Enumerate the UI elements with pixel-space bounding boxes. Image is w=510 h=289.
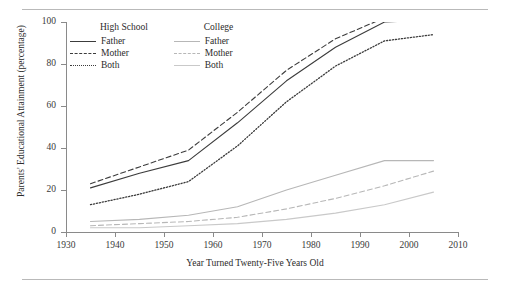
legend-group-high-school: High SchoolFatherMotherBoth — [70, 22, 148, 71]
legend-item-label: Father — [205, 36, 229, 46]
x-tick-2000 — [409, 232, 410, 237]
legend-swatch-icon — [174, 53, 200, 54]
x-tick-label-1990: 1990 — [340, 240, 380, 250]
y-tick-label-0: 0 — [16, 227, 56, 236]
x-tick-label-1930: 1930 — [46, 240, 86, 250]
x-tick-1950 — [164, 232, 165, 237]
figure-container: 020406080100 193019401950196019701980199… — [0, 0, 510, 289]
y-axis-title: Parents' Educational Attainment (percent… — [16, 0, 26, 226]
x-tick-label-1950: 1950 — [144, 240, 184, 250]
legend-group-heading: High School — [70, 22, 148, 32]
legend-item-high-school-father[interactable]: Father — [70, 35, 148, 47]
x-tick-2010 — [458, 232, 459, 237]
legend-swatch-icon — [70, 65, 96, 66]
legend-item-college-both[interactable]: Both — [174, 59, 234, 71]
legend-swatch-icon — [70, 41, 96, 42]
legend-group-heading: College — [174, 22, 234, 32]
x-tick-1970 — [262, 232, 263, 237]
x-tick-label-2000: 2000 — [389, 240, 429, 250]
x-tick-1980 — [311, 232, 312, 237]
x-tick-label-1980: 1980 — [291, 240, 331, 250]
x-tick-1940 — [115, 232, 116, 237]
legend: High SchoolFatherMotherBothCollegeFather… — [70, 22, 233, 71]
legend-swatch-icon — [174, 65, 200, 66]
series-line-college-both — [91, 192, 434, 228]
x-tick-1960 — [213, 232, 214, 237]
top-divider-rule — [22, 9, 488, 10]
x-axis-title: Year Turned Twenty-Five Years Old — [0, 258, 510, 268]
x-tick-label-1970: 1970 — [242, 240, 282, 250]
legend-item-label: Both — [205, 60, 223, 70]
legend-item-label: Both — [101, 60, 119, 70]
legend-item-label: Mother — [101, 48, 129, 58]
legend-item-label: Father — [101, 36, 125, 46]
legend-swatch-icon — [174, 41, 200, 42]
x-tick-label-2010: 2010 — [438, 240, 478, 250]
bottom-divider-rule — [22, 279, 488, 280]
legend-swatch-icon — [70, 53, 96, 54]
legend-group-college: CollegeFatherMotherBoth — [174, 22, 234, 71]
legend-item-college-father[interactable]: Father — [174, 35, 234, 47]
x-tick-label-1940: 1940 — [95, 240, 135, 250]
legend-item-label: Mother — [205, 48, 233, 58]
legend-item-college-mother[interactable]: Mother — [174, 47, 234, 59]
x-tick-label-1960: 1960 — [193, 240, 233, 250]
series-line-college-father — [91, 161, 434, 222]
legend-item-high-school-both[interactable]: Both — [70, 59, 148, 71]
x-tick-1990 — [360, 232, 361, 237]
legend-item-high-school-mother[interactable]: Mother — [70, 47, 148, 59]
x-tick-1930 — [66, 232, 67, 237]
